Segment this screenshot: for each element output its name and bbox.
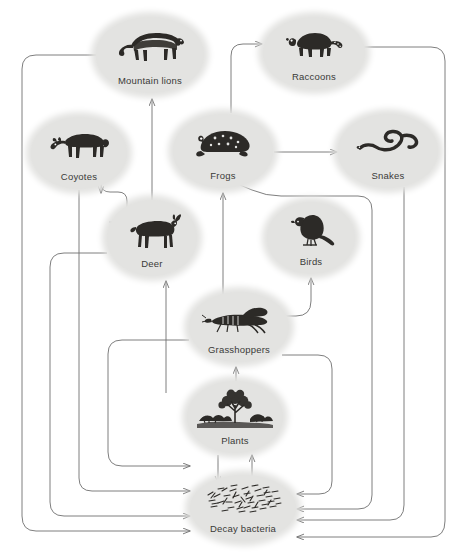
- node-label: Snakes: [372, 170, 405, 181]
- food-web-diagram: Mountain lions Raccoons: [0, 0, 464, 559]
- mountain-lion-icon: [96, 22, 204, 71]
- node-mountain-lions[interactable]: Mountain lions: [96, 17, 204, 93]
- plants-icon: [187, 385, 283, 431]
- node-label: Decay bacteria: [210, 523, 276, 534]
- edge-deer-to-decay-bacteria: [50, 253, 190, 516]
- node-coyotes[interactable]: Coyotes: [31, 117, 127, 189]
- node-raccoons[interactable]: Raccoons: [263, 17, 365, 89]
- node-label: Grasshoppers: [208, 344, 270, 355]
- node-frogs[interactable]: Frogs: [173, 114, 273, 188]
- node-birds[interactable]: Birds: [267, 202, 355, 274]
- node-label: Raccoons: [292, 71, 336, 82]
- node-label: Frogs: [210, 170, 235, 181]
- node-label: Plants: [221, 435, 249, 446]
- node-decay-bacteria[interactable]: Decay bacteria: [190, 475, 296, 541]
- edge-frogs-to-raccoons: [231, 44, 262, 113]
- node-grasshoppers[interactable]: Grasshoppers: [189, 292, 289, 362]
- node-label: Deer: [141, 258, 162, 269]
- raccoon-icon: [263, 21, 365, 67]
- edge-birds-to-decay-bacteria: [282, 355, 332, 494]
- grasshopper-icon: [189, 296, 289, 341]
- bacteria-icon: [190, 479, 296, 521]
- bird-icon: [267, 206, 355, 252]
- coyote-icon: [31, 121, 127, 167]
- node-snakes[interactable]: Snakes: [338, 114, 438, 188]
- edge-grasshoppers-to-decay-bacteria: [108, 340, 190, 466]
- node-deer[interactable]: Deer: [107, 200, 197, 276]
- deer-icon: [107, 205, 197, 254]
- frog-icon: [173, 118, 273, 165]
- node-label: Birds: [300, 256, 323, 267]
- snake-icon: [338, 118, 438, 165]
- node-plants[interactable]: Plants: [187, 381, 283, 453]
- node-label: Mountain lions: [118, 75, 182, 86]
- node-label: Coyotes: [61, 171, 97, 182]
